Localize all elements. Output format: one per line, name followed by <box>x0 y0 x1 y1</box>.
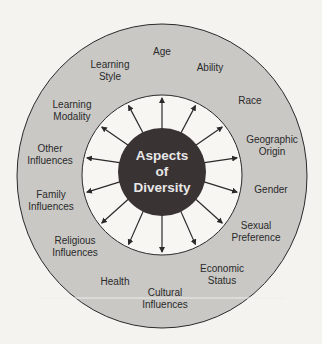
aspect-label-line: Age <box>153 46 171 58</box>
aspect-label: Gender <box>254 184 287 196</box>
aspect-label-line: Influences <box>27 155 73 167</box>
aspect-label: Age <box>153 46 171 58</box>
aspect-label: FamilyInfluences <box>28 189 74 213</box>
aspect-label-line: Religious <box>52 235 98 247</box>
aspect-label-line: Influences <box>142 299 188 311</box>
aspect-label-line: Sexual <box>232 220 281 232</box>
aspect-label-line: Learning <box>91 59 130 71</box>
aspect-label: Race <box>238 95 261 107</box>
aspect-label: LearningStyle <box>91 59 130 83</box>
aspect-label: GeographicOrigin <box>246 134 298 158</box>
aspect-label: SexualPreference <box>232 220 281 244</box>
aspect-label-line: Preference <box>232 232 281 244</box>
aspect-label: OtherInfluences <box>27 143 73 167</box>
aspect-label-line: Geographic <box>246 134 298 146</box>
aspect-label: Ability <box>197 62 224 74</box>
center-title-line-3: Diversity <box>133 180 190 196</box>
aspect-label-line: Economic <box>200 263 244 275</box>
aspect-label: CulturalInfluences <box>142 287 188 311</box>
aspect-label-line: Other <box>27 143 73 155</box>
center-title: Aspects of Diversity <box>133 148 190 196</box>
aspect-label-line: Influences <box>52 247 98 259</box>
aspect-label: ReligiousInfluences <box>52 235 98 259</box>
center-title-line-1: Aspects <box>133 148 190 164</box>
aspect-label-line: Status <box>200 275 244 287</box>
aspect-label-line: Style <box>91 71 130 83</box>
aspect-label-line: Learning <box>53 99 92 111</box>
aspect-label-line: Gender <box>254 184 287 196</box>
aspect-label-line: Modality <box>53 111 92 123</box>
aspect-label: Health <box>101 276 130 288</box>
aspect-label-line: Origin <box>246 146 298 158</box>
aspect-label: LearningModality <box>53 99 92 123</box>
aspect-label: EconomicStatus <box>200 263 244 287</box>
aspect-label-line: Influences <box>28 201 74 213</box>
aspect-label-line: Ability <box>197 62 224 74</box>
aspect-label-line: Cultural <box>142 287 188 299</box>
aspect-label-line: Race <box>238 95 261 107</box>
center-title-line-2: of <box>133 164 190 180</box>
aspect-label-line: Health <box>101 276 130 288</box>
aspect-label-line: Family <box>28 189 74 201</box>
